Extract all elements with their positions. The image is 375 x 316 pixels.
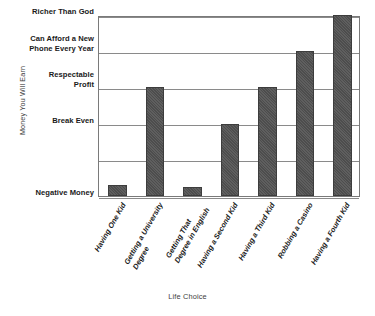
y-axis-tick-label: RespectableProfit xyxy=(8,70,94,89)
x-axis-tick-labels: Having One KidGetting a UniversityDegree… xyxy=(98,197,360,292)
bar xyxy=(221,124,240,196)
bar xyxy=(296,51,315,196)
y-axis-tick-label: Negative Money xyxy=(8,188,94,197)
bar xyxy=(146,87,165,196)
y-axis-tick-label-line: Richer Than God xyxy=(32,7,94,16)
x-axis-tick-label-line: Having a Third Kid xyxy=(237,201,278,262)
x-axis-tick-label-text: Having One Kid xyxy=(92,201,128,253)
bar xyxy=(258,87,277,196)
x-axis-tick-label-text: Getting a UniversityDegree xyxy=(122,201,174,271)
bar xyxy=(333,15,352,196)
y-axis-tick-label: Break Even xyxy=(8,116,94,125)
y-axis-tick-label-line: Negative Money xyxy=(35,188,94,197)
x-axis-title: Life Choice xyxy=(0,292,375,301)
x-axis-tick-label-line: Robbing a Casino xyxy=(275,201,315,260)
y-axis-tick-labels: Negative MoneyBreak EvenRespectableProfi… xyxy=(8,0,94,316)
x-axis-tick-label-text: Robbing a Casino xyxy=(275,201,315,260)
bars-container xyxy=(99,17,359,196)
bar-chart: Money You Will Earn Negative MoneyBreak … xyxy=(0,0,375,316)
x-axis-tick-label-text: Having a Fourth Kid xyxy=(309,201,352,267)
y-axis-tick-label-line: Profit xyxy=(8,80,94,89)
x-axis-tick-label-text: Having a Third Kid xyxy=(237,201,278,262)
y-axis-tick-label-line: Break Even xyxy=(52,116,94,125)
y-axis-tick-label-line: Can Afford a New xyxy=(30,34,94,43)
y-axis-tick-label-line: Respectable xyxy=(49,70,94,79)
bar xyxy=(108,185,127,196)
x-axis-tick-label-line: Having One Kid xyxy=(92,201,128,253)
y-axis-tick-label: Richer Than God xyxy=(8,7,94,16)
x-axis-tick-label-line: Having a Fourth Kid xyxy=(309,201,352,267)
plot-area xyxy=(98,16,360,197)
y-axis-tick-label: Can Afford a NewPhone Every Year xyxy=(8,34,94,53)
y-axis-tick-label-line: Phone Every Year xyxy=(8,44,94,53)
bar xyxy=(183,187,202,196)
